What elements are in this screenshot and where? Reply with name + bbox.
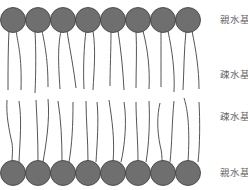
label-top-hydrophobic: 疎水基 — [220, 69, 248, 81]
label-bottom-hydrophobic: 疎水基 — [220, 111, 248, 123]
top-leaflet-tails — [8, 30, 199, 93]
bottom-leaflet-tails — [7, 98, 200, 162]
lipid-bilayer-diagram — [0, 0, 248, 190]
label-top-hydrophilic: 親水基 — [220, 14, 248, 26]
bottom-leaflet-heads — [1, 161, 201, 186]
top-leaflet-heads — [1, 8, 201, 33]
label-bottom-hydrophilic: 親水基 — [220, 167, 248, 179]
